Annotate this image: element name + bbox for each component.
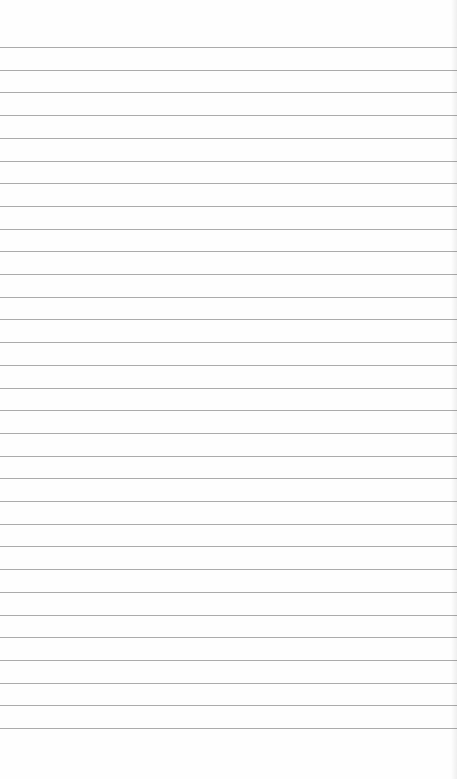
ruled-line: [0, 683, 457, 684]
ruled-line: [0, 705, 457, 706]
ruled-line: [0, 433, 457, 434]
ruled-line: [0, 161, 457, 162]
lined-paper-page: [0, 0, 457, 779]
ruled-line: [0, 206, 457, 207]
ruled-line: [0, 388, 457, 389]
ruled-lines: [0, 0, 457, 779]
ruled-line: [0, 274, 457, 275]
ruled-line: [0, 592, 457, 593]
ruled-line: [0, 229, 457, 230]
ruled-line: [0, 728, 457, 729]
ruled-line: [0, 92, 457, 93]
ruled-line: [0, 456, 457, 457]
ruled-line: [0, 70, 457, 71]
ruled-line: [0, 251, 457, 252]
ruled-line: [0, 524, 457, 525]
page-edge-shadow: [451, 0, 457, 779]
ruled-line: [0, 297, 457, 298]
ruled-line: [0, 47, 457, 48]
ruled-line: [0, 138, 457, 139]
ruled-line: [0, 342, 457, 343]
ruled-line: [0, 319, 457, 320]
ruled-line: [0, 183, 457, 184]
ruled-line: [0, 569, 457, 570]
ruled-line: [0, 637, 457, 638]
ruled-line: [0, 660, 457, 661]
ruled-line: [0, 410, 457, 411]
ruled-line: [0, 365, 457, 366]
ruled-line: [0, 546, 457, 547]
ruled-line: [0, 115, 457, 116]
ruled-line: [0, 615, 457, 616]
ruled-line: [0, 501, 457, 502]
ruled-line: [0, 478, 457, 479]
